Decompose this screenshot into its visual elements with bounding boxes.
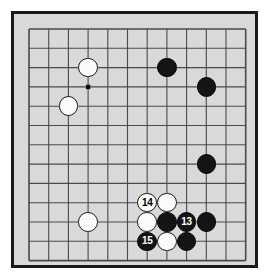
stone-layer: 141315 bbox=[14, 14, 261, 271]
black-stone-j7[interactable] bbox=[197, 154, 217, 174]
white-stone-g12[interactable] bbox=[157, 232, 177, 252]
black-stone-j11[interactable] bbox=[197, 212, 217, 232]
board-surface[interactable]: 141315 bbox=[14, 14, 261, 271]
white-stone-b5[interactable] bbox=[59, 96, 79, 116]
black-stone-g11[interactable] bbox=[157, 212, 177, 232]
stone-move-number: 13 bbox=[181, 216, 192, 226]
black-stone-15[interactable]: 15 bbox=[137, 232, 157, 252]
white-stone-f11[interactable] bbox=[137, 212, 157, 232]
white-stone-c11[interactable] bbox=[78, 212, 98, 232]
black-stone-j4[interactable] bbox=[197, 77, 217, 97]
board-frame: 141315 bbox=[11, 11, 258, 268]
black-stone-h12[interactable] bbox=[177, 232, 197, 252]
black-stone-13[interactable]: 13 bbox=[177, 212, 197, 232]
white-stone-c3[interactable] bbox=[78, 58, 98, 78]
white-stone-14[interactable]: 14 bbox=[137, 193, 157, 213]
white-stone-g10[interactable] bbox=[157, 193, 177, 213]
go-board-diagram: 141315 bbox=[0, 0, 269, 278]
stone-move-number: 15 bbox=[142, 236, 153, 246]
black-stone-h3[interactable] bbox=[157, 58, 177, 78]
stone-move-number: 14 bbox=[142, 197, 153, 207]
